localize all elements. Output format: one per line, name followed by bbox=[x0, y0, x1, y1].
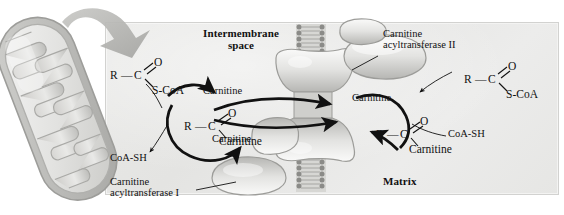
mitochondrion-illustration bbox=[2, 4, 122, 209]
matrix-label: Matrix bbox=[383, 176, 417, 188]
coash-label-left: CoA-SH bbox=[110, 152, 147, 163]
carnitine-acyltransferase-I-label: Carnitine acyltransferase I bbox=[110, 176, 179, 199]
acyl-carnitine-right-structure: R — C O Carnitine bbox=[376, 118, 468, 162]
cat2-line2: acyltransferase II bbox=[383, 39, 456, 50]
carnitine-label-left-top: Carnitine bbox=[203, 85, 242, 96]
diagram-panel bbox=[105, 22, 559, 195]
acyl-carnitine-left-structure: R — C O Carnitine bbox=[184, 110, 276, 154]
intermembrane-line2: space bbox=[190, 40, 292, 52]
carnitine-label-left-bottom: Carnitine bbox=[212, 133, 251, 144]
cat2-line1: Carnitine bbox=[383, 28, 456, 39]
figure-canvas: Intermembrane space Matrix Carnitine acy… bbox=[0, 0, 564, 215]
carnitine-label-right: Carnitine bbox=[352, 92, 391, 103]
carnitine-acyltransferase-II-label: Carnitine acyltransferase II bbox=[383, 28, 456, 51]
cat1-line2: acyltransferase I bbox=[110, 187, 179, 198]
acyl-coa-right-structure: R — C O S-CoA bbox=[464, 62, 550, 106]
cat1-line1: Carnitine bbox=[110, 176, 179, 187]
acyl-coa-left-structure: R — C O S-CoA bbox=[110, 58, 196, 102]
coash-label-right: CoA-SH bbox=[448, 128, 485, 139]
intermembrane-space-label: Intermembrane space bbox=[190, 28, 292, 52]
